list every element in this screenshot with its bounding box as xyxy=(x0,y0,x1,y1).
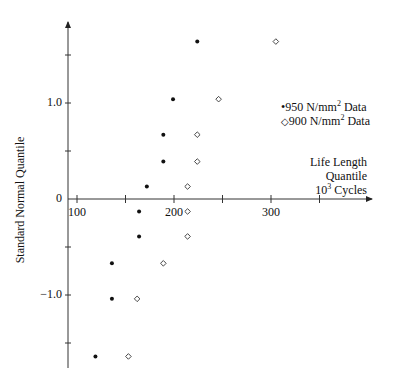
open-diamond-icon: ◇ xyxy=(281,116,289,127)
data-point-950 xyxy=(161,160,165,164)
y-tick-label: −1.0 xyxy=(40,287,62,302)
legend-item-900: ◇900 N/mm2 Data xyxy=(281,114,370,129)
legend: •950 N/mm2 Data ◇900 N/mm2 Data xyxy=(281,100,370,129)
data-point-950 xyxy=(110,261,114,265)
data-point-900 xyxy=(194,159,200,165)
data-point-900 xyxy=(185,184,191,190)
data-point-900 xyxy=(161,261,167,267)
data-point-900 xyxy=(194,132,200,138)
data-point-900 xyxy=(273,39,279,45)
data-point-950 xyxy=(110,297,114,301)
x-tick-label: 300 xyxy=(262,205,280,220)
y-tick-label: 1.0 xyxy=(47,95,62,110)
data-point-900 xyxy=(216,96,222,102)
data-point-900 xyxy=(126,354,132,360)
data-point-900 xyxy=(134,296,140,302)
x-axis-title: Life Length Quantile 103 Cycles xyxy=(310,155,367,197)
y-tick-label: 0 xyxy=(56,191,62,206)
data-point-900 xyxy=(185,234,191,240)
data-point-950 xyxy=(195,40,199,44)
x-tick-label: 100 xyxy=(68,205,86,220)
legend-item-950: •950 N/mm2 Data xyxy=(281,100,370,114)
data-point-950 xyxy=(137,209,141,213)
data-point-950 xyxy=(161,133,165,137)
data-point-950 xyxy=(145,185,149,189)
data-point-950 xyxy=(93,354,97,358)
x-tick-label: 200 xyxy=(165,205,183,220)
data-point-950 xyxy=(171,97,175,101)
data-point-950 xyxy=(137,234,141,238)
data-point-900 xyxy=(185,209,191,215)
